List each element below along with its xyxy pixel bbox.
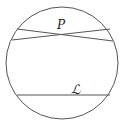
- line-l-label: ℒ: [71, 83, 80, 96]
- point-p-label: P: [57, 19, 65, 31]
